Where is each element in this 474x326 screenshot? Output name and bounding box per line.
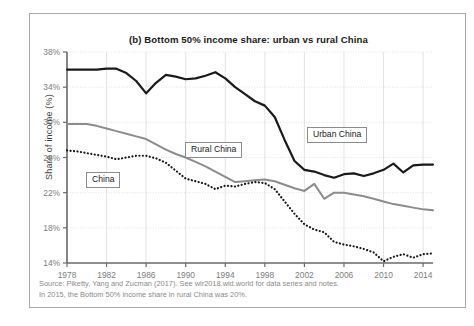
y-tick-label: 30% (43, 117, 60, 127)
data-series (67, 69, 433, 262)
source-line-2: In 2015, the Bottom 50% income share in … (39, 290, 459, 301)
y-tick-label: 18% (43, 223, 60, 233)
source-line-1: Source: Piketty, Yang and Zucman (2017).… (39, 279, 459, 290)
y-tick-label: 14% (43, 258, 60, 268)
figure-card: (b) Bottom 50% income share: urban vs ru… (29, 13, 466, 308)
y-tick-label: 22% (43, 188, 60, 198)
y-tick-label: 26% (43, 153, 60, 163)
series-line-china (67, 150, 433, 261)
y-tick-labels: 14%18%22%26%30%34%38% (43, 47, 60, 268)
series-line-rural-china (67, 124, 433, 210)
series-label-china: China (86, 172, 120, 188)
series-label-rural-china: Rural China (185, 142, 242, 158)
source-note: Source: Piketty, Yang and Zucman (2017).… (39, 279, 459, 300)
series-label-urban-china: Urban China (307, 127, 367, 143)
chart-plot: 14%18%22%26%30%34%38% 197819821986199019… (30, 14, 467, 309)
series-line-urban-china (67, 69, 433, 178)
y-tick-label: 34% (43, 82, 60, 92)
y-tick-label: 38% (43, 47, 60, 57)
